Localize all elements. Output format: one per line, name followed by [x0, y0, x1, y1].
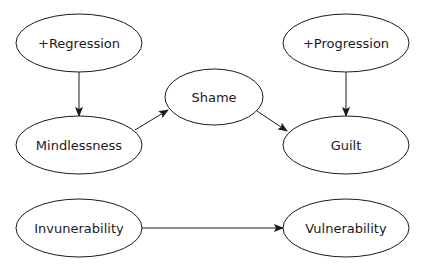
- node-mindlessness: Mindlessness: [16, 116, 142, 174]
- node-shame: Shame: [165, 69, 263, 125]
- node-label: Invunerability: [34, 221, 124, 236]
- node-regression: +Regression: [16, 14, 142, 72]
- node-label: +Progression: [303, 36, 389, 51]
- diagram-canvas: +RegressionMindlessnessShame+Progression…: [0, 0, 426, 271]
- node-guilt: Guilt: [283, 116, 409, 174]
- edge-mindlessness-to-shame: [135, 110, 168, 130]
- node-label: Guilt: [331, 138, 362, 153]
- nodes-layer: +RegressionMindlessnessShame+Progression…: [16, 14, 409, 257]
- edge-shame-to-guilt: [257, 111, 287, 131]
- node-label: Vulnerability: [305, 221, 387, 236]
- node-label: Shame: [191, 90, 236, 105]
- node-vulnerability: Vulnerability: [283, 199, 409, 257]
- node-invunerability: Invunerability: [16, 199, 142, 257]
- node-progression: +Progression: [283, 14, 409, 72]
- node-label: +Regression: [38, 36, 120, 51]
- node-label: Mindlessness: [36, 138, 122, 153]
